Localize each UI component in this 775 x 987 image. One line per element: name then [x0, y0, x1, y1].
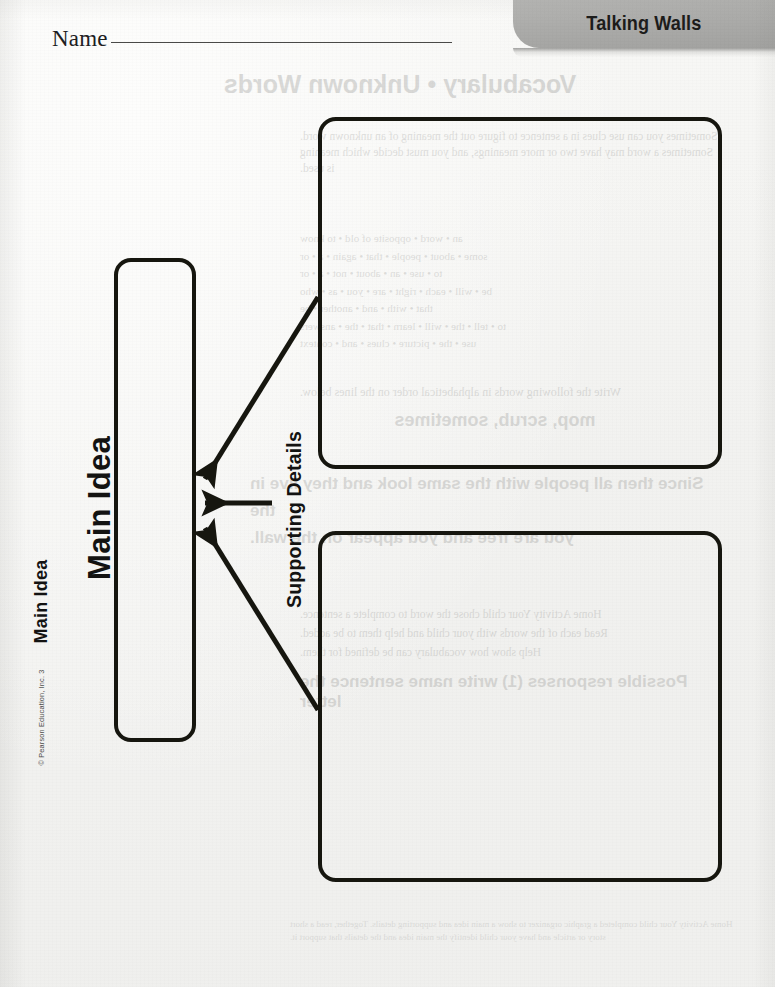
supporting-detail-box-bottom[interactable] — [318, 531, 722, 882]
main-idea-box[interactable] — [114, 258, 196, 742]
main-idea-heading: Main Idea — [82, 388, 118, 628]
main-idea-graphic-organizer: Main Idea Main Idea Supporting Details — [0, 0, 775, 987]
worksheet-page: Vocabulary • Unknown Words Sometimes you… — [0, 0, 775, 987]
supporting-details-heading: Supporting Details — [283, 414, 306, 626]
supporting-detail-box-top[interactable] — [318, 117, 722, 469]
copyright-notice: © Pearson Education, Inc. 3 — [37, 658, 46, 778]
